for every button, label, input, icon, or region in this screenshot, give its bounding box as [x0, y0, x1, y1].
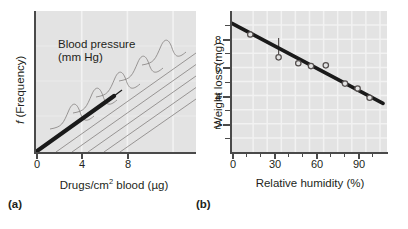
data-point	[248, 32, 253, 37]
x-ticklabel-0-b: 0	[230, 158, 236, 170]
y-axis-title-a-text: (Frequency)	[14, 56, 26, 121]
x-axis-title-b: Relative humidity (%)	[256, 177, 365, 189]
annotation-leader-a	[114, 90, 122, 96]
data-point	[296, 61, 301, 66]
x-tick-100-b	[372, 152, 373, 157]
x-axis-title-a-part2: blood (µg)	[113, 179, 168, 191]
data-point	[276, 55, 281, 60]
annotation-blood-pressure: Blood pressure (mm Hg)	[58, 38, 135, 64]
regression-line-b	[232, 23, 383, 103]
panel-caption-a: (a)	[8, 198, 22, 210]
x-axis-line-b	[230, 152, 388, 154]
x-tick-50-b	[302, 152, 303, 157]
y-tick-5-b	[225, 82, 230, 83]
x-ticklabel-30-b: 30	[269, 158, 281, 170]
data-point	[355, 86, 360, 91]
x-ticklabel-90-b: 90	[353, 158, 365, 170]
x-axis-line-a	[34, 152, 196, 154]
annotation-line-1: Blood pressure	[58, 38, 135, 51]
x-tick-80-b	[344, 152, 345, 157]
y-axis-line-a	[34, 11, 36, 154]
x-tick-10-b	[246, 152, 247, 157]
x-ticklabel-60-b: 60	[311, 158, 323, 170]
panel-b-graphic	[232, 11, 387, 152]
plot-area-a: Blood pressure (mm Hg)	[36, 11, 196, 152]
y-axis-line-b	[230, 11, 232, 154]
x-axis-title-a: Drugs/cm2 blood (µg)	[60, 177, 169, 191]
y-tick-7-b	[225, 53, 230, 54]
y-tick-3-b	[225, 110, 230, 111]
x-tick-40-b	[288, 152, 289, 157]
x-axis-title-a-part1: Drugs/cm	[60, 179, 109, 191]
y-tick-8-b	[223, 39, 230, 41]
y-tick-9-b	[225, 25, 230, 26]
x-tick-70-b	[330, 152, 331, 157]
panel-caption-b: (b)	[196, 198, 211, 210]
data-point	[323, 63, 328, 68]
x-ticklabel-0-a: 0	[34, 158, 40, 170]
figure-container: Blood pressure (mm Hg) 0 4 8 Drugs/cm2 b…	[0, 0, 408, 229]
annotation-line-2: (mm Hg)	[58, 51, 135, 64]
x-ticklabel-8-a: 8	[125, 158, 131, 170]
y-tick-6-b	[223, 67, 230, 69]
y-tick-4-b	[223, 96, 230, 98]
x-tick-20-b	[260, 152, 261, 157]
panel-a: Blood pressure (mm Hg) 0 4 8 Drugs/cm2 b…	[0, 0, 204, 229]
plot-area-b	[232, 11, 387, 152]
x-ticklabel-4-a: 4	[79, 158, 85, 170]
data-point	[308, 63, 313, 68]
panel-a-graphic	[36, 11, 196, 152]
data-point	[367, 95, 372, 100]
panel-b: 0 30 60 90 2 4 6 8 Relative humidity (%)…	[204, 0, 408, 229]
y-tick-2-b	[223, 124, 230, 126]
y-axis-title-a-symbol: f	[14, 121, 26, 124]
y-tick-1-b	[225, 138, 230, 139]
data-point	[342, 81, 347, 86]
y-axis-title-a: f (Frequency)	[14, 56, 26, 124]
y-axis-title-b: Weight loss (mg)	[212, 42, 224, 128]
gridlines-b	[232, 11, 387, 152]
